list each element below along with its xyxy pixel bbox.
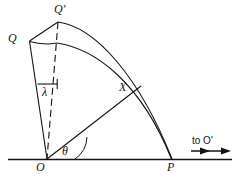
label-to-o-prime: to O'	[192, 136, 213, 146]
dashed-line-qprime-o	[47, 22, 58, 159]
label-theta-angle: θ	[62, 145, 68, 157]
chord-q-qprime	[30, 22, 59, 41]
arrow-head-mid	[200, 148, 210, 155]
inner-arc	[57, 43, 172, 159]
label-lambda-angle: λ	[42, 86, 47, 98]
arrow-head-end	[221, 148, 231, 155]
label-p: P	[167, 161, 174, 173]
outer-arc	[58, 22, 172, 159]
line-q-to-o	[30, 41, 48, 159]
label-q-prime: Q'	[54, 3, 65, 15]
label-q: Q	[8, 32, 17, 44]
theta-angle-arc	[75, 137, 87, 159]
label-o: O	[36, 161, 45, 173]
direction-arrow	[191, 148, 231, 155]
label-x: X	[119, 81, 126, 93]
chord-q-inner-arc	[30, 42, 58, 44]
geometry-figure: Q' Q λ X θ O P to O'	[0, 0, 237, 179]
